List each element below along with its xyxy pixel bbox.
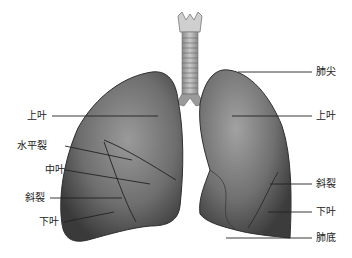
lung-anatomy-figure: 上叶 水平裂 中叶 斜裂 下叶 肺尖 上叶 斜裂 下叶 肺底: [0, 0, 352, 258]
label-horizontal-fissure: 水平裂: [17, 140, 47, 152]
label-lower-lobe-right: 下叶: [39, 216, 59, 228]
trachea: [176, 12, 204, 106]
label-upper-lobe-left: 上叶: [316, 110, 336, 122]
right-lung: [61, 72, 183, 241]
label-lung-apex: 肺尖: [316, 66, 336, 78]
label-middle-lobe: 中叶: [45, 164, 65, 176]
label-oblique-fissure-left: 斜裂: [316, 178, 336, 190]
label-oblique-fissure-right: 斜裂: [25, 192, 45, 204]
left-lung: [200, 70, 291, 238]
label-upper-lobe-right: 上叶: [27, 110, 47, 122]
label-lung-base: 肺底: [316, 232, 336, 244]
label-lower-lobe-left: 下叶: [316, 206, 336, 218]
